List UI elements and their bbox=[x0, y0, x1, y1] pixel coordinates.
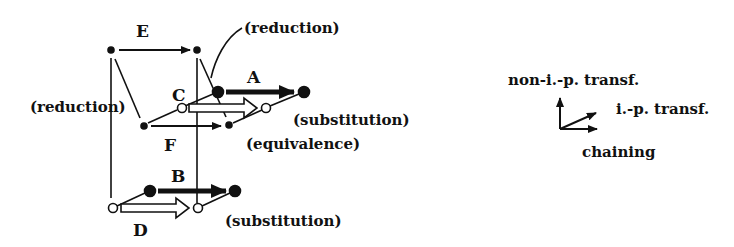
node-c-left bbox=[178, 104, 187, 113]
arrow-e: E bbox=[119, 21, 190, 50]
legend-arrow-diagonal bbox=[560, 113, 596, 129]
annotation-reduction-top: (reduction) bbox=[244, 19, 340, 37]
node-a-left bbox=[213, 87, 224, 98]
legend-non-ip-transf: non-i.-p. transf. bbox=[508, 71, 639, 89]
transformation-diagram: E F A C B D (reduction) bbox=[0, 0, 734, 247]
link-f-c bbox=[148, 110, 177, 123]
legend: non-i.-p. transf. i.-p. transf. chaining bbox=[508, 71, 709, 161]
arrow-f: F bbox=[151, 126, 221, 155]
label-b: B bbox=[171, 166, 185, 186]
node-d-right bbox=[194, 204, 203, 213]
node-c-right bbox=[262, 104, 271, 113]
arrow-b: B bbox=[158, 166, 226, 191]
arrow-d: D bbox=[121, 198, 189, 240]
label-e: E bbox=[136, 21, 149, 41]
legend-chaining: chaining bbox=[582, 143, 656, 161]
label-c: C bbox=[172, 85, 186, 105]
label-a: A bbox=[246, 67, 261, 87]
node-f-left bbox=[141, 123, 147, 129]
node-b-left bbox=[145, 186, 156, 197]
label-d: D bbox=[133, 220, 148, 240]
link-d-b-right bbox=[202, 193, 230, 206]
arrow-a: A bbox=[226, 67, 294, 92]
node-e-left bbox=[108, 47, 114, 53]
annotation-equivalence: (equivalence) bbox=[246, 135, 360, 153]
label-f: F bbox=[164, 135, 176, 155]
connector-lines bbox=[111, 28, 299, 206]
annotation-reduction-left: (reduction) bbox=[30, 98, 126, 116]
annotation-substitution-bottom: (substitution) bbox=[225, 212, 341, 230]
reduction-pointer bbox=[211, 28, 242, 78]
node-e-right bbox=[194, 47, 200, 53]
node-f-right bbox=[226, 122, 232, 128]
node-d-left bbox=[109, 204, 118, 213]
legend-ip-transf: i.-p. transf. bbox=[616, 100, 709, 118]
nodes bbox=[108, 47, 310, 213]
annotation-substitution-top: (substitution) bbox=[293, 111, 409, 129]
node-b-right bbox=[230, 186, 241, 197]
link-c-a-right bbox=[270, 94, 299, 106]
node-a-right bbox=[299, 87, 310, 98]
